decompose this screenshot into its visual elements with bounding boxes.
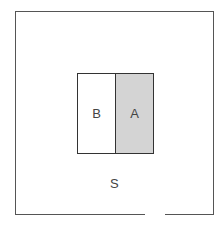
region-a: A <box>115 73 154 154</box>
border-gap <box>145 212 165 217</box>
universal-set-label: S <box>110 176 119 191</box>
region-b-label: B <box>92 106 101 121</box>
region-b: B <box>77 73 116 154</box>
region-a-label: A <box>130 106 139 121</box>
